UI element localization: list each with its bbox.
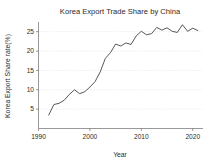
y-axis-label: Korea Export Share rate(%) (4, 34, 12, 118)
x-tick-label-1990: 1990 (31, 133, 46, 140)
y-tick-label-25: 25 (27, 28, 35, 35)
x-tick-label-2000: 2000 (83, 133, 98, 140)
y-tick-label-15: 15 (27, 67, 35, 74)
y-tick-label-10: 10 (27, 86, 35, 93)
y-tick-label-20: 20 (27, 47, 35, 54)
chart-container: Korea Export Trade Share by China 510152… (0, 0, 210, 163)
line-chart: Korea Export Trade Share by China 510152… (0, 0, 210, 163)
x-tick-label-2020: 2020 (185, 133, 200, 140)
y-tick-label-5: 5 (30, 105, 34, 112)
x-tick-label-2010: 2010 (134, 133, 149, 140)
x-axis-label: Year (113, 151, 127, 158)
chart-title: Korea Export Trade Share by China (60, 7, 181, 16)
